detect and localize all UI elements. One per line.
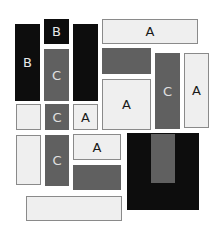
block-b2: B bbox=[44, 19, 69, 44]
block-g1 bbox=[102, 48, 151, 74]
block-label: C bbox=[52, 153, 61, 168]
block-c3: C bbox=[45, 104, 69, 130]
block-g2 bbox=[73, 165, 121, 190]
block-a5: A bbox=[73, 134, 121, 160]
block-l2 bbox=[16, 135, 41, 185]
block-label: C bbox=[52, 110, 61, 125]
block-l3 bbox=[26, 196, 122, 221]
block-g3 bbox=[151, 134, 175, 183]
block-c4: C bbox=[45, 135, 69, 186]
block-label: C bbox=[52, 68, 61, 83]
block-label: A bbox=[93, 140, 102, 155]
block-label: B bbox=[23, 55, 32, 70]
block-c1: C bbox=[44, 49, 69, 101]
block-a1: A bbox=[102, 19, 198, 44]
block-l1 bbox=[16, 104, 41, 130]
block-k1 bbox=[73, 24, 98, 101]
block-label: B bbox=[52, 24, 61, 39]
block-a4: A bbox=[73, 104, 98, 130]
block-label: A bbox=[146, 24, 155, 39]
block-label: A bbox=[192, 83, 201, 98]
block-a3: A bbox=[184, 53, 209, 128]
block-label: C bbox=[163, 84, 172, 99]
block-label: A bbox=[81, 110, 90, 125]
block-c2: C bbox=[155, 53, 180, 129]
block-label: A bbox=[122, 97, 131, 112]
block-b1: B bbox=[15, 24, 40, 101]
block-a2: A bbox=[102, 79, 151, 130]
